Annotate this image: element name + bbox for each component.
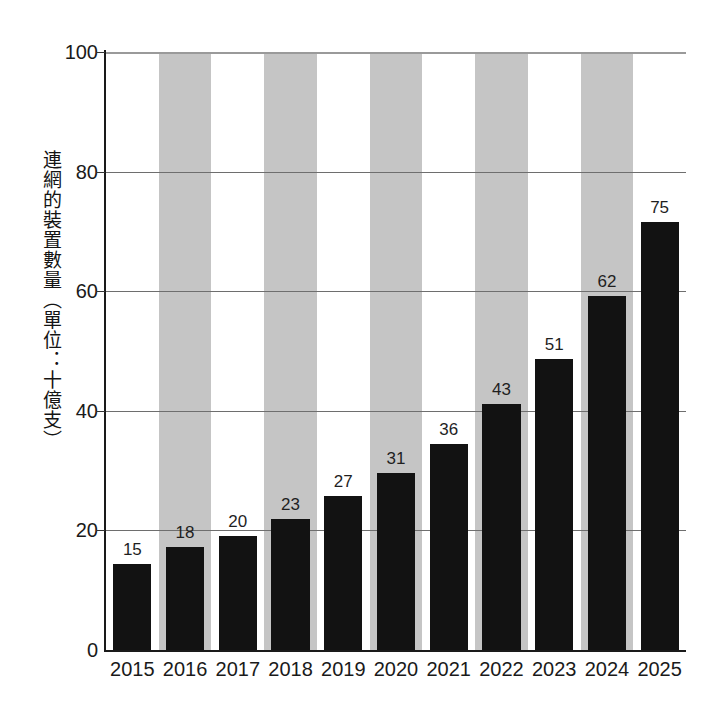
bar — [166, 547, 204, 650]
bar-value-label: 75 — [641, 198, 679, 218]
x-tick-label: 2018 — [264, 658, 317, 681]
bar — [113, 564, 151, 650]
y-tick-mark — [96, 411, 105, 412]
bar-value-label: 15 — [113, 540, 151, 560]
bar-value-label: 43 — [482, 380, 520, 400]
x-tick-label: 2016 — [159, 658, 212, 681]
bar — [324, 496, 362, 650]
bar — [641, 222, 679, 650]
x-axis-line — [104, 650, 686, 652]
bar-value-label: 23 — [271, 495, 309, 515]
x-tick-label: 2025 — [633, 658, 686, 681]
x-tick-label: 2017 — [211, 658, 264, 681]
bar — [588, 296, 626, 650]
plot-area: 1518202327313643516275 — [106, 52, 686, 650]
x-axis-tick-labels: 2015201620172018201920202021202220232024… — [106, 658, 686, 692]
bar — [430, 444, 468, 650]
bar-chart-figure: 連網的裝置數量（單位：十億支） 020406080100 15182023273… — [0, 0, 723, 725]
y-tick-mark — [96, 52, 105, 53]
y-tick-label: 100 — [52, 41, 98, 64]
bar-value-label: 18 — [166, 523, 204, 543]
bar-value-label: 31 — [377, 449, 415, 469]
bar-value-label: 51 — [535, 335, 573, 355]
bar — [219, 536, 257, 650]
x-tick-label: 2024 — [581, 658, 634, 681]
x-tick-label: 2023 — [528, 658, 581, 681]
bar — [535, 359, 573, 650]
bar-series: 1518202327313643516275 — [106, 52, 686, 650]
x-tick-label: 2019 — [317, 658, 370, 681]
bar-value-label: 27 — [324, 472, 362, 492]
bar-value-label: 36 — [430, 420, 468, 440]
bar-value-label: 62 — [588, 272, 626, 292]
y-tick-mark — [96, 530, 105, 531]
y-tick-label: 40 — [52, 399, 98, 422]
x-tick-label: 2021 — [422, 658, 475, 681]
bar-value-label: 20 — [219, 512, 257, 532]
y-tick-label: 20 — [52, 519, 98, 542]
y-tick-label: 0 — [52, 639, 98, 662]
y-axis-tick-labels: 020406080100 — [48, 0, 98, 725]
x-tick-label: 2022 — [475, 658, 528, 681]
x-tick-label: 2015 — [106, 658, 159, 681]
y-tick-mark — [96, 172, 105, 173]
bar — [271, 519, 309, 650]
y-tick-label: 80 — [52, 160, 98, 183]
y-tick-mark — [96, 291, 105, 292]
y-tick-label: 60 — [52, 280, 98, 303]
bar — [377, 473, 415, 650]
bar — [482, 404, 520, 650]
x-tick-label: 2020 — [370, 658, 423, 681]
